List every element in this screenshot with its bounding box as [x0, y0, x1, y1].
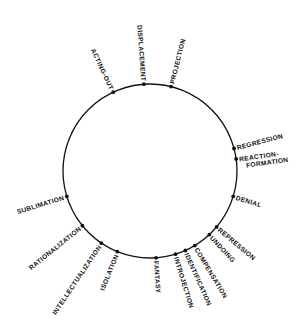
node-dot [215, 225, 219, 229]
node-dot [207, 233, 211, 237]
node-label: INTELLECTUALIZATION [51, 244, 103, 316]
diagram-canvas: ACTING-OUTDISPLACEMENTPROJECTIONREGRESSI… [0, 0, 301, 331]
node-acting-out: ACTING-OUT [90, 47, 115, 94]
node-dot [116, 250, 120, 254]
node-isolation: ISOLATION [99, 250, 120, 292]
node-dot [183, 249, 187, 253]
node-dot [111, 90, 115, 94]
node-dot [99, 241, 103, 245]
node-label: PROJECTION [168, 38, 186, 85]
node-label: REGRESSION [236, 132, 284, 151]
node-dot [231, 195, 235, 199]
node-dot [154, 256, 158, 260]
node-projection: PROJECTION [168, 38, 186, 89]
node-label: ISOLATION [99, 253, 120, 291]
node-label: SUBLIMATION [16, 194, 65, 215]
node-dot [232, 147, 236, 151]
node-dot [169, 85, 173, 89]
node-label: ACTING-OUT [90, 47, 115, 91]
node-displacement: DISPLACEMENT [136, 25, 147, 86]
node-denial: DENIAL [231, 194, 262, 208]
main-circle [63, 84, 237, 258]
node-label: DISPLACEMENT [136, 25, 147, 82]
node-label: RATIONALIZATION [28, 225, 83, 271]
node-intellectualization: INTELLECTUALIZATION [51, 241, 104, 316]
node-label: REACTION-FORMATION [239, 148, 289, 169]
node-reaction-formation: REACTION-FORMATION [234, 148, 288, 169]
node-regression: REGRESSION [232, 132, 284, 151]
node-group: ACTING-OUTDISPLACEMENTPROJECTIONREGRESSI… [16, 25, 289, 316]
node-dot [142, 82, 146, 86]
node-dot [65, 195, 69, 199]
node-label: FANTASY [153, 261, 162, 294]
node-sublimation: SUBLIMATION [16, 194, 69, 215]
node-dot [234, 157, 238, 161]
defense-mechanisms-circle-diagram: ACTING-OUTDISPLACEMENTPROJECTIONREGRESSI… [0, 0, 301, 331]
node-fantasy: FANTASY [153, 256, 162, 294]
node-label: DENIAL [235, 194, 263, 208]
node-rationalization: RATIONALIZATION [28, 224, 85, 271]
node-dot [193, 244, 197, 248]
node-dot [80, 224, 84, 228]
node-dot [174, 252, 178, 256]
